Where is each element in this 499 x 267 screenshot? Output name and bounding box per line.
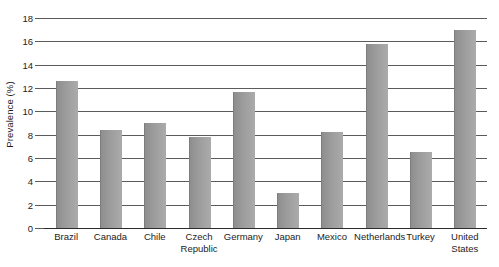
y-tick-mark <box>35 41 44 42</box>
y-axis-title-text: Prevalence (%) <box>4 81 15 147</box>
y-tick-label: 2 <box>28 199 33 210</box>
bar <box>100 130 122 228</box>
y-tick-label: 10 <box>22 106 33 117</box>
y-tick-mark <box>35 135 44 136</box>
y-tick-label: 4 <box>28 176 33 187</box>
bar <box>321 132 343 228</box>
x-tick-label: Brazil <box>44 231 88 243</box>
bar <box>410 152 432 228</box>
gridline <box>44 88 487 89</box>
y-tick-mark <box>35 88 44 89</box>
bar <box>454 30 476 228</box>
x-tick-label: Netherlands <box>354 231 398 243</box>
bar <box>56 81 78 228</box>
x-tick-label: Germany <box>221 231 265 243</box>
y-tick-mark <box>35 228 44 229</box>
y-tick-label: 14 <box>22 59 33 70</box>
gridline <box>44 111 487 112</box>
y-tick-mark <box>35 18 44 19</box>
x-tick-label: Turkey <box>398 231 442 243</box>
gridline <box>44 65 487 66</box>
bar <box>189 137 211 228</box>
y-tick-mark <box>35 65 44 66</box>
y-tick-label: 8 <box>28 129 33 140</box>
y-tick-label: 16 <box>22 36 33 47</box>
y-tick-label: 6 <box>28 153 33 164</box>
x-axis-baseline <box>44 228 487 229</box>
x-tick-label: United States <box>443 231 487 254</box>
bar <box>366 44 388 228</box>
x-tick-label: Chile <box>133 231 177 243</box>
x-tick-label: Czech Republic <box>177 231 221 254</box>
y-tick-mark <box>35 111 44 112</box>
bar <box>233 92 255 229</box>
plot-area: 024681012141618 <box>44 18 487 228</box>
x-tick-label: Canada <box>88 231 132 243</box>
gridline <box>44 41 487 42</box>
y-tick-label: 18 <box>22 13 33 24</box>
bar <box>277 193 299 228</box>
y-tick-mark <box>35 181 44 182</box>
x-tick-label: Japan <box>266 231 310 243</box>
y-axis-title: Prevalence (%) <box>0 0 18 228</box>
y-tick-label: 0 <box>28 223 33 234</box>
gridline <box>44 18 487 19</box>
y-tick-mark <box>35 205 44 206</box>
y-tick-mark <box>35 158 44 159</box>
y-tick-label: 12 <box>22 83 33 94</box>
bar <box>144 123 166 228</box>
bar-chart-figure: Prevalence (%) 024681012141618 BrazilCan… <box>0 0 499 267</box>
x-axis-labels: BrazilCanadaChileCzech RepublicGermanyJa… <box>44 231 487 267</box>
x-tick-label: Mexico <box>310 231 354 243</box>
